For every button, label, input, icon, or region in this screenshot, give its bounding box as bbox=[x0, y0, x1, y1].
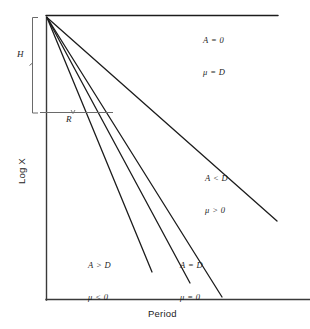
series-label-a-lt-d-mu-gt-0: A < D μ > 0 bbox=[205, 152, 228, 237]
series-label-a-eq-d-mu-eq-0: A = D μ = 0 bbox=[180, 239, 203, 324]
axes-group bbox=[46, 17, 310, 300]
x-axis-label: Period bbox=[148, 308, 177, 320]
series-label-line-1: A = 0 bbox=[203, 35, 225, 46]
series-label-line-2: μ = 0 bbox=[180, 292, 203, 303]
figure-container: Log X Period H R A = 0 μ = D A < D μ > 0… bbox=[0, 0, 310, 329]
series-label-line-2: μ > 0 bbox=[205, 205, 228, 216]
r-measure-label: R bbox=[66, 114, 72, 125]
data-line-a-lt-d-mu-gt-0 bbox=[47, 18, 277, 222]
data-line-a-gt-d-mu-lt-0 bbox=[47, 18, 152, 273]
series-label-a-eq-0-mu-eq-d: A = 0 μ = D bbox=[203, 14, 225, 99]
series-label-line-1: A < D bbox=[205, 173, 228, 184]
y-axis-label: Log X bbox=[16, 158, 28, 184]
plot-canvas bbox=[0, 0, 310, 329]
series-label-line-2: μ < 0 bbox=[88, 292, 111, 303]
data-lines-group bbox=[46, 16, 278, 298]
h-brace-path bbox=[33, 18, 39, 114]
series-label-line-2: μ = D bbox=[203, 67, 225, 78]
h-brace bbox=[30, 18, 39, 114]
h-brace-label: H bbox=[17, 49, 24, 60]
data-line-a-eq-d-mu-eq-0 bbox=[47, 18, 190, 284]
series-label-line-1: A = D bbox=[180, 260, 203, 271]
r-measure bbox=[40, 110, 113, 114]
series-label-a-gt-d-mu-lt-0: A > D μ < 0 bbox=[88, 239, 111, 324]
series-label-line-1: A > D bbox=[88, 260, 111, 271]
